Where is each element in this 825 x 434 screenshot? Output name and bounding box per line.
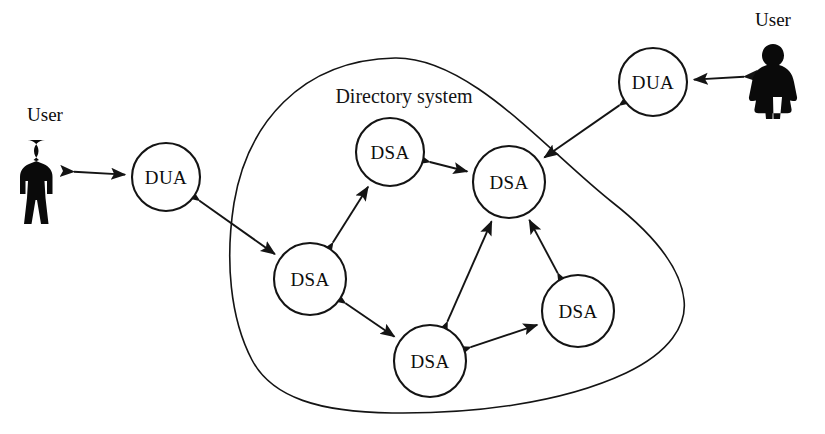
link-dsa-top-dsa-upper-right	[430, 162, 468, 172]
link-dua-left-dsa-left	[200, 201, 275, 254]
link-dsa-left-dsa-bottom	[346, 303, 395, 336]
link-dsa-bottom-dsa-upper-right	[447, 221, 491, 321]
diagram-canvas: Directory system DUADUADSADSADSADSADSA U…	[0, 0, 825, 434]
node-dsa-upper-right[interactable]: DSA	[473, 146, 545, 218]
node-label-dsa-upper-right: DSA	[489, 172, 528, 193]
node-dsa-left[interactable]: DSA	[274, 243, 346, 315]
user-user-right: User	[749, 9, 797, 119]
user-label-user-left: User	[27, 104, 64, 125]
directory-system-diagram: Directory system DUADUADSADSADSADSADSA U…	[0, 0, 825, 434]
person-icon	[749, 44, 797, 119]
user-user-left: User	[20, 104, 64, 224]
link-user-left-dua-left	[74, 172, 125, 175]
node-dsa-right[interactable]: DSA	[542, 275, 614, 347]
node-label-dua-left: DUA	[145, 167, 187, 188]
node-dua-left[interactable]: DUA	[132, 143, 200, 211]
link-dsa-left-dsa-top	[333, 187, 368, 243]
person-icon	[20, 140, 53, 224]
node-dua-right[interactable]: DUA	[619, 48, 687, 116]
link-dua-right-dsa-upper-right	[544, 105, 619, 157]
edges-group	[74, 77, 744, 348]
node-label-dsa-bottom: DSA	[410, 351, 449, 372]
link-dsa-bottom-dsa-right	[471, 325, 538, 347]
directory-system-label: Directory system	[335, 85, 473, 108]
link-dsa-right-dsa-upper-right	[529, 220, 557, 273]
node-label-dsa-top: DSA	[370, 142, 409, 163]
node-label-dsa-left: DSA	[290, 269, 329, 290]
link-user-right-dua-right	[694, 77, 744, 80]
user-label-user-right: User	[755, 9, 792, 30]
node-dsa-top[interactable]: DSA	[356, 118, 424, 186]
node-label-dua-right: DUA	[632, 72, 674, 93]
node-label-dsa-right: DSA	[558, 301, 597, 322]
node-dsa-bottom[interactable]: DSA	[394, 325, 466, 397]
